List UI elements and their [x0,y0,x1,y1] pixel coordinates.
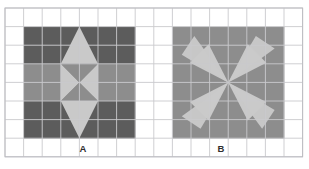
tile [42,64,61,83]
tile [172,64,191,83]
tile [265,27,284,46]
tile [117,64,136,83]
tile [172,27,191,46]
worksheet-canvas: A B [0,0,309,169]
tile [210,27,229,46]
tile [98,101,117,120]
tile [265,120,284,139]
tile [172,82,191,101]
tile [98,45,117,64]
tile [98,27,117,46]
tile [228,27,247,46]
tile [24,82,43,101]
tile [24,45,43,64]
tile [42,27,61,46]
tile [210,120,229,139]
tile [42,120,61,139]
shape-label-b: B [218,143,225,154]
tile [24,64,43,83]
tile [228,120,247,139]
pattern-figure: A B [0,0,309,169]
tile [117,27,136,46]
tile [265,64,284,83]
tile [117,82,136,101]
tile [265,82,284,101]
tile [24,101,43,120]
tile [172,120,191,139]
tile [98,120,117,139]
tile [117,45,136,64]
tile [24,27,43,46]
tile [42,82,61,101]
tile [24,120,43,139]
tile [117,101,136,120]
shape-label-a: A [80,143,87,154]
tile [98,82,117,101]
tile [117,120,136,139]
tile [98,64,117,83]
tile [42,45,61,64]
tile [42,101,61,120]
